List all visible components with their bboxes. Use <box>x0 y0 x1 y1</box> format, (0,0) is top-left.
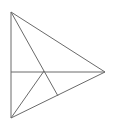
figure-canvas: Geometric line figure <box>0 0 121 126</box>
geometric-line-figure: Geometric line figure <box>0 0 121 126</box>
